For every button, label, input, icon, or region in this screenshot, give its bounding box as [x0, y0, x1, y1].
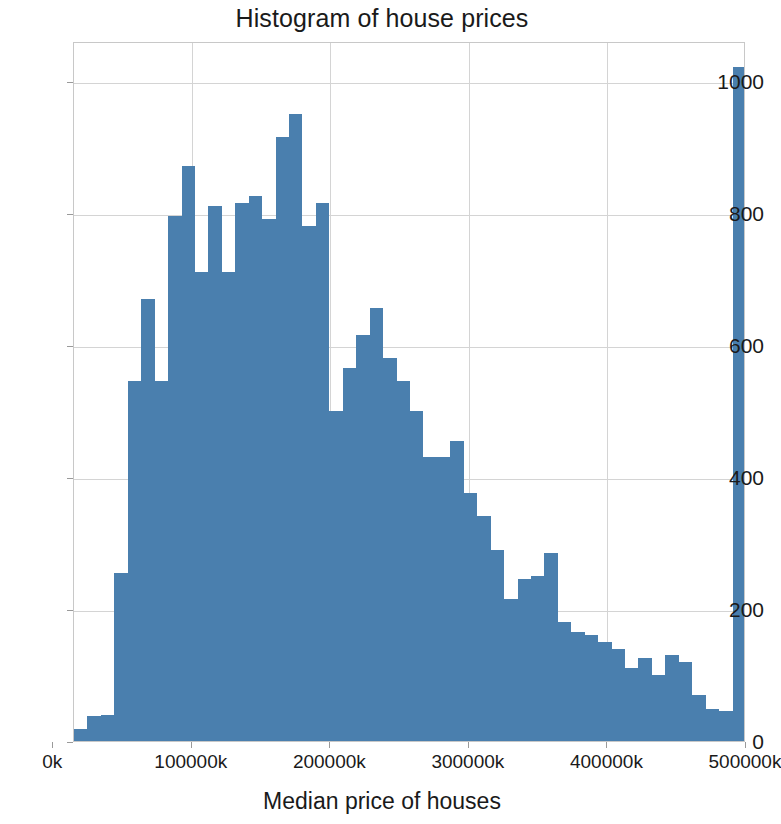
histogram-bar	[141, 299, 154, 741]
histogram-bar	[437, 457, 450, 741]
histogram-bar	[464, 493, 477, 741]
y-tick-mark	[67, 610, 73, 611]
histogram-bar	[477, 516, 490, 741]
histogram-bar	[625, 668, 638, 741]
x-tick-mark	[329, 742, 330, 748]
x-tick-label: 400000k	[570, 752, 643, 771]
x-tick-mark	[468, 742, 469, 748]
x-tick-mark	[191, 742, 192, 748]
histogram-bar	[208, 206, 221, 741]
histogram-bar	[276, 137, 289, 741]
histogram-bar	[74, 729, 87, 741]
x-axis-label: Median price of houses	[0, 788, 764, 815]
histogram-bar	[343, 368, 356, 741]
x-tick-mark	[606, 742, 607, 748]
x-tick-label: 500000k	[709, 752, 781, 771]
y-tick-mark	[67, 742, 73, 743]
histogram-bar	[155, 381, 168, 741]
histogram-bar	[168, 216, 181, 741]
y-tick-label: 400	[702, 467, 764, 488]
y-tick-label: 600	[702, 335, 764, 356]
histogram-bar	[410, 411, 423, 741]
histogram-bar	[383, 358, 396, 741]
histogram-bar	[638, 658, 651, 741]
histogram-bar	[302, 226, 315, 741]
histogram-bar	[128, 381, 141, 741]
histogram-bar	[665, 655, 678, 741]
histogram-bar	[329, 411, 342, 741]
histogram-bar	[518, 579, 531, 741]
histogram-bar	[423, 457, 436, 741]
y-tick-mark	[67, 346, 73, 347]
histogram-bar	[598, 642, 611, 741]
histogram-bar	[316, 203, 329, 741]
x-tick-mark	[745, 742, 746, 748]
histogram-bar	[679, 662, 692, 741]
histogram-bar	[491, 550, 504, 742]
histogram-bar	[195, 272, 208, 741]
y-tick-mark	[67, 478, 73, 479]
plot-area	[73, 42, 745, 742]
histogram-bar	[585, 635, 598, 741]
histogram-bar	[652, 675, 665, 741]
x-tick-label: 300000k	[431, 752, 504, 771]
histogram-bar	[101, 715, 114, 741]
histogram-bar	[504, 599, 517, 741]
histogram-bar	[450, 441, 463, 741]
x-tick-label: 200000k	[293, 752, 366, 771]
y-tick-label: 200	[702, 599, 764, 620]
histogram-bar	[733, 67, 745, 741]
chart-title: Histogram of house prices	[0, 4, 764, 33]
y-tick-label: 0	[702, 731, 764, 752]
y-tick-mark	[67, 82, 73, 83]
histogram-bar	[571, 632, 584, 741]
histogram-bar	[249, 196, 262, 741]
histogram-bar	[397, 381, 410, 741]
histogram-bar	[262, 219, 275, 741]
histogram-bar	[222, 272, 235, 741]
histogram-bar	[235, 203, 248, 741]
y-tick-label: 800	[702, 203, 764, 224]
histogram-bar	[558, 622, 571, 741]
histogram-bar	[370, 308, 383, 741]
histogram-bar	[356, 335, 369, 741]
histogram-bar	[531, 576, 544, 741]
histogram-bar	[114, 573, 127, 741]
x-tick-label: 0k	[42, 752, 62, 771]
histogram-bar	[544, 553, 557, 741]
histogram-bar	[612, 649, 625, 741]
histogram-bar	[289, 114, 302, 741]
x-tick-label: 100000k	[154, 752, 227, 771]
histogram-bar	[87, 716, 100, 741]
histogram-bar	[182, 166, 195, 741]
y-tick-mark	[67, 214, 73, 215]
x-tick-mark	[52, 742, 53, 748]
y-tick-label: 1000	[702, 71, 764, 92]
histogram-bars	[74, 43, 744, 741]
